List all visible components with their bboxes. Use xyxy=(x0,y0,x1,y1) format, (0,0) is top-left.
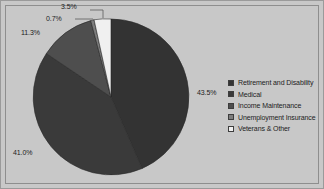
legend-label: Veterans & Other xyxy=(238,125,290,132)
pie-label-medical: 11.3% xyxy=(21,29,40,36)
leader-line-veterans xyxy=(90,10,103,18)
pie-label-retirement-and-disability: 43.5% xyxy=(197,89,216,96)
legend-item-veterans-and-other[interactable]: Veterans & Other xyxy=(228,123,317,134)
legend-swatch-icon xyxy=(228,80,234,86)
legend-item-unemployment-insurance[interactable]: Unemployment Insurance xyxy=(228,112,317,123)
legend-swatch-icon xyxy=(228,126,234,132)
legend-label: Income Maintenance xyxy=(238,102,301,109)
legend-item-retirement-and-disability[interactable]: Retirement and Disability xyxy=(228,77,317,88)
legend-swatch-icon xyxy=(228,91,234,97)
legend-swatch-icon xyxy=(228,103,234,109)
legend-swatch-icon xyxy=(228,114,234,120)
pie-label-unemployment-insurance: 0.7% xyxy=(46,15,62,22)
legend-label: Medical xyxy=(238,91,261,98)
legend-item-medical[interactable]: Medical xyxy=(228,89,317,100)
legend-label: Unemployment Insurance xyxy=(238,114,316,121)
pie-label-veterans-and-other: 3.5% xyxy=(61,3,77,10)
chart-legend: Retirement and Disability Medical Income… xyxy=(225,75,319,137)
legend-label: Retirement and Disability xyxy=(238,79,313,86)
pie-chart-figure: 43.5% 41.0% 11.3% 0.7% 3.5% Retirement a… xyxy=(0,0,324,189)
pie-chart-graphic xyxy=(7,5,229,187)
pie-label-income-maintenance: 41.0% xyxy=(13,149,32,156)
legend-item-income-maintenance[interactable]: Income Maintenance xyxy=(228,100,317,111)
